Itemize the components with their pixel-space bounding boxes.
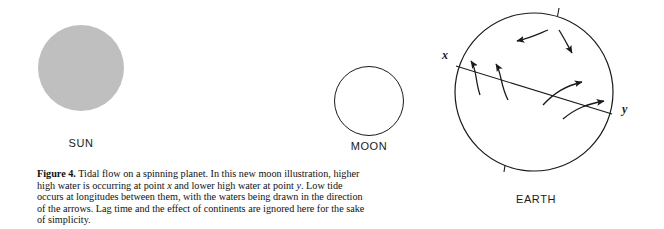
earth-label: EARTH xyxy=(516,193,606,205)
point-y-label: y xyxy=(620,102,628,116)
sun-label: SUN xyxy=(38,137,124,149)
moon-label: MOON xyxy=(334,140,404,152)
moon-disc xyxy=(334,66,404,136)
figure-tidal-flow: SUN MOON x y EARTH Figure 4 xyxy=(0,0,664,229)
caption-text-part-2: and lower high water at point xyxy=(172,180,297,191)
earth-diagram: x y xyxy=(430,0,664,185)
figure-caption: Figure 4. Tidal flow on a spinning plane… xyxy=(37,168,367,226)
sun-disc xyxy=(38,25,124,111)
figure-number: Figure 4. xyxy=(37,168,76,179)
point-x-label: x xyxy=(441,48,448,62)
